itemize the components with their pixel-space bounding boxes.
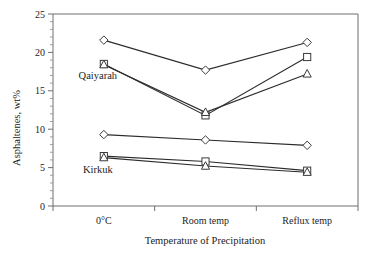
chart-figure: 0510152025 0°CRoom tempReflux temp Qaiya… (0, 0, 374, 254)
group-annotation-kirkuk: Kirkuk (83, 164, 113, 175)
y-tick-label: 15 (35, 85, 45, 96)
y-tick-label: 10 (35, 124, 45, 135)
x-tick-label: 0°C (96, 215, 112, 226)
group-annotation-qaiyarah: Qaiyarah (79, 70, 118, 81)
data-point-marker-square (304, 53, 311, 60)
y-axis-title: Asphaltenes, wt% (11, 90, 22, 166)
y-tick-label: 0 (40, 201, 45, 212)
y-tick-label: 20 (35, 47, 45, 58)
y-tick-label: 5 (40, 162, 45, 173)
x-axis-title: Temperature of Precipitation (145, 235, 266, 246)
x-tick-label: Room temp (182, 215, 229, 226)
asphaltenes-vs-temperature-line-chart: 0510152025 0°CRoom tempReflux temp Qaiya… (0, 0, 374, 254)
x-tick-label: Reflux temp (282, 215, 332, 226)
y-tick-label: 25 (35, 9, 45, 20)
